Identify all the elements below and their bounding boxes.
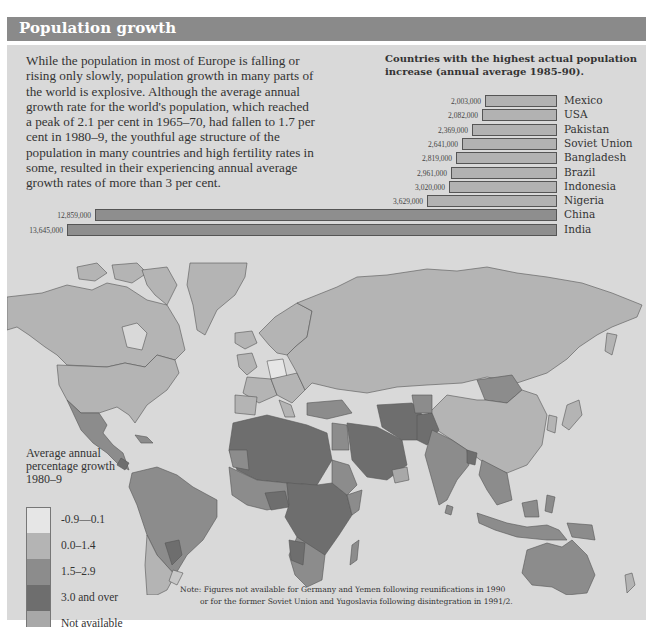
map-region-bangladesh <box>467 450 477 465</box>
legend-swatch <box>26 585 51 611</box>
map-region-turkey <box>307 400 352 419</box>
chart-title: Countries with the highest actual popula… <box>385 53 645 78</box>
legend-swatch <box>26 533 51 559</box>
legend-item: 1.5–2.9 <box>26 559 146 585</box>
legend-item: 3.0 and over <box>26 585 146 611</box>
legend-label: 1.5–2.9 <box>61 565 96 577</box>
map-region-australia <box>522 540 595 595</box>
map-region-soviet-union <box>287 267 642 393</box>
page-title: Population growth <box>19 19 176 37</box>
intro-paragraph: While the population in most of Europe i… <box>26 53 316 191</box>
legend-item: -0.9—0.1 <box>26 507 146 533</box>
map-region-indonesia <box>477 513 567 540</box>
section-header: Population growth <box>7 17 646 41</box>
note-line-1: Note: Figures not available for Germany … <box>180 584 520 596</box>
legend-swatch <box>26 611 51 627</box>
map-note: Note: Figures not available for Germany … <box>180 584 520 608</box>
legend-swatch <box>26 507 51 533</box>
legend-label: 3.0 and over <box>61 591 118 603</box>
note-line-2: or for the former Soviet Union and Yugos… <box>180 596 520 608</box>
legend-label: -0.9—0.1 <box>61 513 105 525</box>
legend-label: Not available <box>61 617 123 627</box>
legend-item: Not available <box>26 611 146 627</box>
legend-swatch <box>26 559 51 585</box>
map-region-greenland <box>187 263 247 335</box>
legend-item: 0.0–1.4 <box>26 533 146 559</box>
legend-label: 0.0–1.4 <box>61 539 96 551</box>
legend-title: Average annual percentage growth 1980–9 <box>26 447 136 487</box>
map-legend: -0.9—0.10.0–1.41.5–2.93.0 and overNot av… <box>26 507 146 627</box>
